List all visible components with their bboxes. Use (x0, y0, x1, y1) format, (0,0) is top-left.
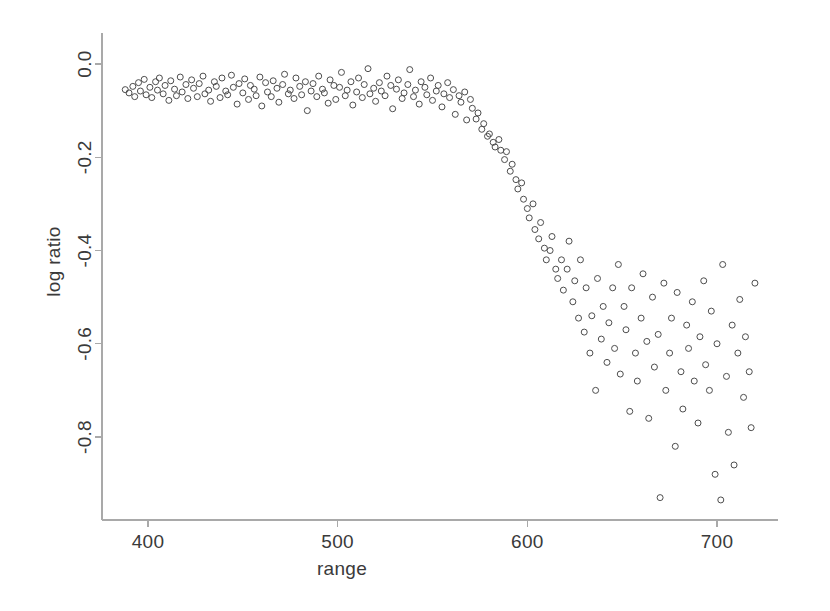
data-point (555, 275, 561, 281)
data-point (752, 280, 758, 286)
data-point (577, 257, 583, 263)
data-point (612, 345, 618, 351)
data-point (627, 408, 633, 414)
data-point (166, 97, 172, 103)
data-point (382, 93, 388, 99)
data-point (230, 84, 236, 90)
data-point (314, 94, 320, 100)
data-point (143, 92, 149, 98)
data-point (735, 350, 741, 356)
data-point (356, 75, 362, 81)
data-point (196, 81, 202, 87)
data-point (615, 261, 621, 267)
data-point (462, 89, 468, 95)
data-point (147, 84, 153, 90)
x-tick-label: 600 (511, 531, 544, 552)
data-point (371, 85, 377, 91)
data-point (236, 81, 242, 87)
data-point (475, 110, 481, 116)
data-point (428, 75, 434, 81)
data-point (741, 394, 747, 400)
data-point (308, 88, 314, 94)
data-point (217, 95, 223, 101)
data-point (723, 373, 729, 379)
data-point (168, 78, 174, 84)
data-point (543, 257, 549, 263)
data-point (407, 67, 413, 73)
data-point (674, 289, 680, 295)
data-point (304, 108, 310, 114)
data-point (521, 196, 527, 202)
data-point (316, 73, 322, 79)
data-point (583, 285, 589, 291)
data-point (177, 74, 183, 80)
data-point (532, 227, 538, 233)
data-point (299, 92, 305, 98)
data-point (390, 106, 396, 112)
data-point (667, 350, 673, 356)
data-point (473, 116, 479, 122)
y-tick-label: -0.8 (74, 420, 95, 454)
data-point (122, 87, 128, 93)
data-point (640, 271, 646, 277)
data-point (401, 90, 407, 96)
data-point (651, 364, 657, 370)
data-point (706, 387, 712, 393)
data-point (509, 161, 515, 167)
data-point (219, 75, 225, 81)
data-point (310, 81, 316, 87)
data-point (137, 88, 143, 94)
data-point (663, 387, 669, 393)
data-point (502, 157, 508, 163)
data-point (247, 82, 253, 88)
data-point (646, 415, 652, 421)
data-point (606, 320, 612, 326)
data-point (282, 71, 288, 77)
data-point (553, 266, 559, 272)
data-point (524, 206, 530, 212)
data-point (136, 80, 142, 86)
data-point (668, 315, 674, 321)
data-point (430, 97, 436, 103)
data-point (242, 76, 248, 82)
data-point (405, 82, 411, 88)
data-point (393, 86, 399, 92)
data-point (185, 96, 191, 102)
y-tick-label: -0.6 (74, 327, 95, 361)
data-point (680, 406, 686, 412)
data-point (576, 315, 582, 321)
data-point (424, 92, 430, 98)
data-point (253, 93, 259, 99)
data-point (333, 96, 339, 102)
data-point (595, 275, 601, 281)
data-point (712, 471, 718, 477)
data-point (498, 147, 504, 153)
data-point (268, 94, 274, 100)
data-point (130, 83, 136, 89)
x-tick-label: 700 (701, 531, 734, 552)
data-point (623, 327, 629, 333)
data-point (678, 369, 684, 375)
data-point (373, 98, 379, 104)
data-point (384, 73, 390, 79)
data-point (672, 443, 678, 449)
data-point (549, 234, 555, 240)
y-axis-title-text: log ratio (43, 226, 64, 296)
data-point (331, 82, 337, 88)
data-point (530, 201, 536, 207)
data-point (564, 266, 570, 272)
data-point (376, 80, 382, 86)
data-point (737, 296, 743, 302)
data-point (447, 95, 453, 101)
data-point (240, 90, 246, 96)
data-point (293, 75, 299, 81)
data-point (714, 341, 720, 347)
data-point (452, 111, 458, 117)
data-point (172, 86, 178, 92)
x-axis-title-text: range (317, 558, 367, 579)
data-point (327, 77, 333, 83)
data-point (600, 303, 606, 309)
data-point (280, 82, 286, 88)
data-point (560, 287, 566, 293)
data-point (638, 315, 644, 321)
